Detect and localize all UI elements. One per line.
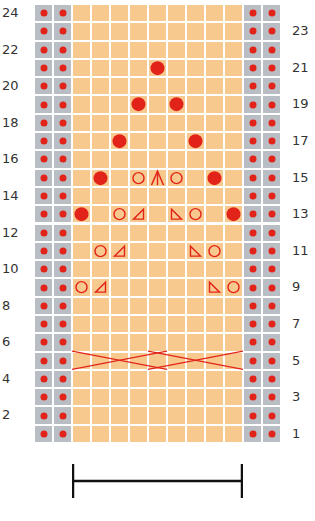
chart-cell [186,297,205,315]
chart-cell [205,4,224,22]
purl-dot-icon [268,302,275,309]
purl-dot-icon [268,174,275,181]
edge-stitch-cell [243,77,262,95]
purl-dot-icon [249,211,256,218]
chart-cell [72,150,91,168]
chart-cell [205,95,224,113]
purl-dot-icon [40,394,47,401]
chart-cell [72,260,91,278]
edge-stitch-cell [53,388,72,406]
chart-cell [148,297,167,315]
yarn-over-icon [205,242,224,260]
chart-cell [224,187,243,205]
purl-dot-icon [249,101,256,108]
chart-cell [129,4,148,22]
edge-stitch-cell [243,315,262,333]
chart-cell [148,278,167,296]
chart-cell [110,260,129,278]
purl-dot-icon [40,28,47,35]
chart-cell [72,114,91,132]
edge-stitch-cell [243,297,262,315]
purl-dot-icon [59,229,66,236]
chart-cell [167,406,186,424]
purl-dot-icon [268,412,275,419]
chart-cell [129,315,148,333]
chart-cell [148,187,167,205]
chart-cell [224,150,243,168]
ssk-icon [186,242,205,260]
edge-stitch-cell [53,187,72,205]
double-decrease-icon [148,169,167,187]
edge-stitch-cell [34,297,53,315]
chart-cell [205,205,224,223]
chart-cell [167,297,186,315]
edge-stitch-cell [262,278,281,296]
yarn-over-icon [224,278,243,296]
purl-dot-icon [249,284,256,291]
purl-dot-icon [59,46,66,53]
chart-cell [129,224,148,242]
yarn-over-icon [110,205,129,223]
edge-stitch-cell [243,333,262,351]
chart-cell [148,388,167,406]
edge-stitch-cell [262,260,281,278]
purl-dot-icon [268,138,275,145]
edge-stitch-cell [34,352,53,370]
edge-stitch-cell [34,59,53,77]
row-label: 9 [292,279,315,294]
chart-cell [110,150,129,168]
edge-stitch-cell [262,370,281,388]
purl-dot-icon [249,28,256,35]
chart-cell [186,41,205,59]
purl-dot-icon [40,229,47,236]
edge-stitch-cell [53,315,72,333]
edge-stitch-cell [243,41,262,59]
edge-stitch-cell [53,22,72,40]
chart-cell [91,150,110,168]
chart-cell [129,132,148,150]
edge-stitch-cell [34,77,53,95]
bobble-icon [205,169,224,187]
purl-dot-icon [59,430,66,437]
purl-dot-icon [268,321,275,328]
edge-stitch-cell [262,224,281,242]
chart-cell [110,4,129,22]
edge-stitch-cell [243,278,262,296]
chart-cell [72,388,91,406]
edge-stitch-cell [262,315,281,333]
purl-dot-icon [268,46,275,53]
purl-dot-icon [249,83,256,90]
purl-dot-icon [40,302,47,309]
purl-dot-icon [268,430,275,437]
chart-cell [186,388,205,406]
row-label: 1 [292,426,315,441]
row-label: 22 [2,42,26,57]
chart-cell [186,150,205,168]
edge-stitch-cell [243,260,262,278]
purl-dot-icon [40,284,47,291]
k2tog-icon [129,205,148,223]
chart-cell [91,315,110,333]
purl-dot-icon [59,302,66,309]
purl-dot-icon [249,321,256,328]
row-label: 7 [292,316,315,331]
edge-stitch-cell [262,352,281,370]
edge-stitch-cell [53,425,72,443]
k2tog-icon [110,242,129,260]
chart-cell [72,242,91,260]
row-label: 18 [2,115,26,130]
purl-dot-icon [268,339,275,346]
purl-dot-icon [40,430,47,437]
chart-cell [205,224,224,242]
purl-dot-icon [249,65,256,72]
edge-stitch-cell [53,41,72,59]
chart-cell [148,4,167,22]
edge-stitch-cell [243,388,262,406]
edge-stitch-cell [243,242,262,260]
chart-cell [110,278,129,296]
edge-stitch-cell [53,4,72,22]
chart-cell [167,242,186,260]
bobble-icon [72,205,91,223]
chart-cell [110,77,129,95]
chart-cell [72,95,91,113]
